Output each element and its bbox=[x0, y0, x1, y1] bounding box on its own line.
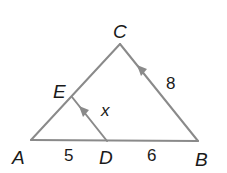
measure-ad: 5 bbox=[64, 146, 73, 165]
vertex-label-b: B bbox=[195, 149, 208, 170]
measure-db: 6 bbox=[147, 146, 156, 165]
vertex-label-e: E bbox=[53, 81, 66, 102]
triangle-diagram: C E A D B 5 6 8 x bbox=[0, 0, 227, 173]
vertex-label-c: C bbox=[113, 21, 127, 42]
segment-ab bbox=[31, 140, 198, 141]
segment-cb bbox=[120, 44, 198, 141]
measure-ed: x bbox=[100, 101, 110, 120]
vertex-label-d: D bbox=[99, 147, 113, 168]
segment-ac bbox=[31, 44, 120, 140]
vertex-label-a: A bbox=[11, 147, 25, 168]
measure-cb: 8 bbox=[166, 74, 175, 93]
